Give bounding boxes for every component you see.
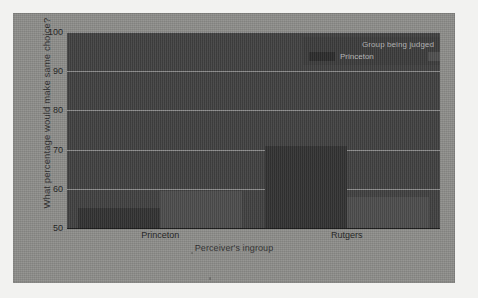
legend-entry-rutgers: Rutgers	[428, 52, 440, 61]
y-axis-tick-label: 80	[37, 106, 63, 115]
legend-swatch-icon	[428, 52, 440, 61]
bar-rutgers-princeton	[265, 146, 347, 228]
legend-title: Group being judged	[307, 40, 440, 49]
x-axis-title: Perceiver's ingroup	[13, 243, 455, 253]
gridline	[67, 150, 440, 151]
y-axis-tick-labels: 1009080706050	[35, 32, 63, 228]
chart-legend: Group being judged PrincetonRutgers	[303, 37, 440, 65]
x-axis-tick-label: Princeton	[67, 230, 254, 240]
x-axis-tick-labels: PrincetonRutgers	[67, 230, 440, 244]
y-axis-tick-label: 70	[37, 146, 63, 155]
legend-swatch-icon	[309, 52, 335, 61]
bar-princeton-princeton	[78, 208, 160, 228]
y-axis-tick-label: 100	[37, 28, 63, 37]
bar-princeton-rutgers	[160, 191, 242, 228]
legend-label: Princeton	[340, 52, 374, 61]
scan-speck	[209, 277, 211, 280]
gridline	[67, 32, 440, 33]
scan-speck	[191, 252, 193, 254]
x-axis-tick-label: Rutgers	[254, 230, 441, 240]
bar-rutgers-rutgers	[347, 197, 429, 228]
y-axis-tick-label: 90	[37, 67, 63, 76]
scanned-page: What percentage would make same choice? …	[0, 0, 478, 298]
gridline	[67, 189, 440, 190]
chart-figure: What percentage would make same choice? …	[13, 13, 455, 283]
plot-area: Group being judged PrincetonRutgers	[67, 32, 440, 229]
legend-entries: PrincetonRutgers	[307, 52, 440, 61]
legend-entry-princeton: Princeton	[309, 52, 374, 61]
gridline	[67, 110, 440, 111]
gridline	[67, 71, 440, 72]
y-axis-tick-label: 50	[37, 224, 63, 233]
y-axis-tick-label: 60	[37, 185, 63, 194]
